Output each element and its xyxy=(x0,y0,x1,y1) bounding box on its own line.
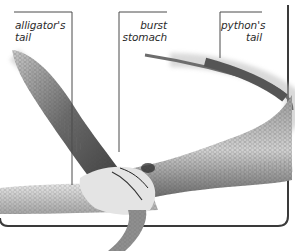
label-line: alligator's xyxy=(15,19,65,31)
label-line: stomach xyxy=(120,31,167,43)
label-line: tail xyxy=(221,31,262,43)
label-alligator-tail: alligator's tail xyxy=(15,19,65,43)
label-line: burst xyxy=(120,19,167,31)
label-line: tail xyxy=(15,31,65,43)
label-python-tail: python's tail xyxy=(221,19,262,43)
annotated-photo: alligator's tail burst stomach python's … xyxy=(0,0,295,251)
label-line: python's xyxy=(221,19,262,31)
label-burst-stomach: burst stomach xyxy=(120,19,167,43)
